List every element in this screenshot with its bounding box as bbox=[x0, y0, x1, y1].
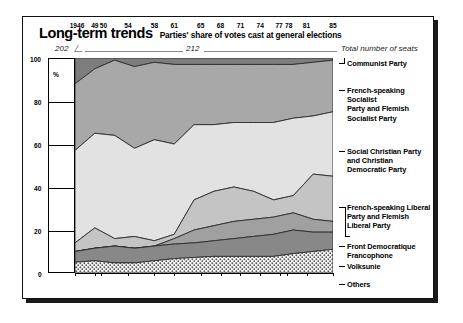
x-axis-label-77: 77 bbox=[275, 22, 282, 29]
x-axis-label-49: 49 bbox=[91, 22, 98, 29]
legend-item-liberal[interactable]: French-speaking Liberal Party and Flemis… bbox=[347, 203, 430, 231]
x-tick bbox=[174, 273, 175, 276]
y-axis-unit: % bbox=[53, 71, 59, 78]
legend-item-volksunie[interactable]: Volksunie bbox=[347, 262, 380, 271]
seats-rule-right bbox=[204, 51, 337, 52]
stacked-area-chart bbox=[75, 58, 333, 273]
y-tick bbox=[49, 145, 76, 146]
legend-leader-others bbox=[339, 284, 345, 285]
seats-value-202: 202 bbox=[55, 44, 68, 53]
x-tick bbox=[280, 273, 281, 276]
legend-bracket-liberal bbox=[345, 207, 346, 237]
x-axis-label-1946: 1946 bbox=[70, 22, 85, 29]
x-tick bbox=[95, 273, 96, 276]
chart-card: Long-term trends Parties' share of votes… bbox=[22, 16, 434, 299]
x-axis-label-78: 78 bbox=[285, 22, 292, 29]
legend-item-fdf[interactable]: Front Democratique Francophone bbox=[347, 242, 415, 260]
y-axis: % bbox=[48, 58, 75, 273]
x-tick bbox=[221, 273, 222, 276]
x-tick bbox=[75, 273, 76, 276]
x-axis-label-74: 74 bbox=[257, 22, 264, 29]
page-subtitle: Parties' share of votes cast at general … bbox=[160, 30, 342, 40]
x-axis-label-85: 85 bbox=[329, 22, 336, 29]
x-tick bbox=[154, 273, 155, 276]
legend-item-socialist[interactable]: French-speaking Socialist Party and Flem… bbox=[347, 86, 435, 123]
legend-leader-social-christian bbox=[339, 151, 345, 152]
seats-caption: Total number of seats bbox=[341, 44, 418, 53]
x-axis bbox=[75, 273, 333, 274]
x-axis-label-81: 81 bbox=[303, 22, 310, 29]
seats-value-212: 212 bbox=[186, 44, 199, 53]
x-axis-label-61: 61 bbox=[171, 22, 178, 29]
x-axis-label-50: 50 bbox=[100, 22, 107, 29]
legend-leader-fdf bbox=[339, 246, 345, 247]
x-tick bbox=[287, 273, 288, 276]
y-tick bbox=[49, 231, 76, 232]
x-axis-label-71: 71 bbox=[237, 22, 244, 29]
legend-leader-socialist bbox=[339, 90, 345, 91]
x-axis-label-68: 68 bbox=[217, 22, 224, 29]
x-tick bbox=[128, 273, 129, 276]
x-tick bbox=[260, 273, 261, 276]
y-tick bbox=[49, 102, 76, 103]
plot-area bbox=[75, 58, 333, 273]
legend: Communist Party French-speaking Socialis… bbox=[339, 58, 435, 280]
x-tick bbox=[333, 273, 334, 276]
legend-bracket-liberal-bottom bbox=[345, 236, 350, 237]
legend-item-social-christian[interactable]: Social Christian Party and Christian Dem… bbox=[347, 147, 421, 175]
chart-figure: Long-term trends Parties' share of votes… bbox=[0, 0, 463, 323]
y-tick bbox=[49, 188, 76, 189]
seats-rule-left bbox=[85, 51, 183, 52]
x-tick bbox=[201, 273, 202, 276]
x-tick bbox=[240, 273, 241, 276]
x-tick bbox=[101, 273, 102, 276]
legend-item-communist[interactable]: Communist Party bbox=[347, 59, 407, 68]
legend-leader-volksunie bbox=[339, 266, 345, 267]
legend-leader-communist-tick bbox=[344, 58, 345, 64]
x-tick bbox=[307, 273, 308, 276]
legend-item-others[interactable]: Others bbox=[347, 280, 370, 289]
seats-annotation: 202 212 Total number of seats bbox=[23, 44, 435, 57]
x-axis-label-54: 54 bbox=[124, 22, 131, 29]
x-axis-label-65: 65 bbox=[197, 22, 204, 29]
x-axis-label-58: 58 bbox=[151, 22, 158, 29]
